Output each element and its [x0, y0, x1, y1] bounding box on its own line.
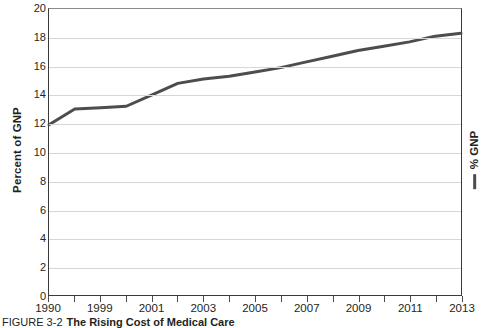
y-axis-tick-label: 2	[22, 262, 46, 273]
plot-area	[48, 8, 462, 296]
y-axis-tick-label: 4	[22, 233, 46, 244]
x-axis-tick-label: 2001	[139, 302, 165, 315]
y-axis-tick-label: 0	[22, 291, 46, 302]
gridline	[49, 124, 461, 125]
legend-entry-percent-gnp: % GNP	[468, 131, 480, 189]
gridline	[49, 268, 461, 269]
x-axis-tick-label: 2013	[449, 302, 475, 315]
x-axis-tick-label: 2007	[294, 302, 320, 315]
y-axis-tick-label: 6	[22, 204, 46, 215]
y-axis-tick-labels: 02468101214161820	[22, 0, 46, 326]
legend-entry-label: % GNP	[468, 131, 480, 169]
y-axis-tick-label: 8	[22, 175, 46, 186]
series-polyline-percent-gnp	[49, 33, 461, 125]
gridline	[49, 67, 461, 68]
x-axis-tick-label: 2009	[346, 302, 372, 315]
gridline	[49, 239, 461, 240]
y-axis-tick-label: 18	[22, 31, 46, 42]
gridline	[49, 153, 461, 154]
y-axis-tick-label: 12	[22, 118, 46, 129]
figure-caption: FIGURE 3-2The Rising Cost of Medical Car…	[2, 316, 482, 328]
gridline	[49, 211, 461, 212]
x-axis-tick-label: 2011	[398, 302, 423, 315]
y-axis-tick-label: 10	[22, 147, 46, 158]
y-axis-tick-label: 16	[22, 60, 46, 71]
figure-title: The Rising Cost of Medical Care	[67, 316, 235, 328]
x-axis-tick-label: 1990	[35, 302, 61, 315]
y-axis-tick-label: 14	[22, 89, 46, 100]
gridline	[49, 95, 461, 96]
x-axis-tick-label: 1999	[87, 302, 113, 315]
gridline	[49, 38, 461, 39]
y-axis-tick-label: 20	[22, 3, 46, 14]
figure-number: FIGURE 3-2	[2, 316, 63, 328]
legend-line-swatch-icon	[473, 174, 476, 189]
series-line-chart	[49, 9, 461, 295]
x-axis-tick-label: 2005	[242, 302, 268, 315]
gridline	[49, 182, 461, 183]
chart-legend: % GNP	[464, 112, 484, 208]
x-axis-tick-label: 2003	[190, 302, 216, 315]
